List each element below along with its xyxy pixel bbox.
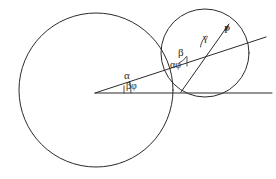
- label-gamma: γ: [203, 32, 208, 43]
- label-point-p: P: [224, 24, 230, 35]
- label-beta: β: [178, 47, 184, 58]
- label-beta-phi: βφ: [126, 81, 137, 91]
- large-circle: [19, 13, 173, 167]
- geometry-figure: α βφ β αφ γ P: [0, 0, 276, 179]
- label-alpha-phi: αφ: [170, 60, 181, 70]
- figure-canvas: [0, 0, 276, 179]
- small-circle: [161, 9, 249, 97]
